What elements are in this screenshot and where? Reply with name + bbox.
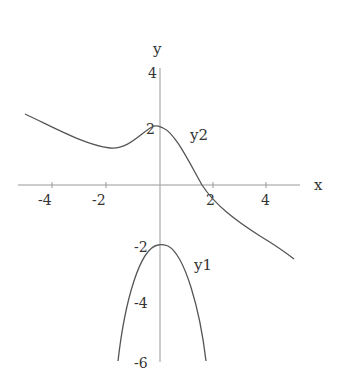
- x-tick-label: -2: [92, 192, 106, 208]
- x-axis-label: x: [314, 176, 323, 194]
- y-axis-label: y: [152, 40, 162, 58]
- curve-label-y1: y1: [193, 256, 212, 274]
- curve-label-y2: y2: [189, 126, 208, 144]
- y-tick-label: -6: [134, 355, 148, 371]
- function-plot: -4 -2 2 4 4 2 -2 -4 -6 y x y2 y1: [0, 0, 350, 391]
- x-tick-label: -4: [38, 192, 52, 208]
- y-tick-label: 4: [148, 65, 157, 81]
- y-tick-label: -4: [134, 295, 148, 311]
- x-tick-label: 4: [261, 192, 270, 208]
- curve-y1: [118, 245, 206, 361]
- y-tick-label: -2: [134, 239, 148, 255]
- y-tick-label: 2: [146, 121, 155, 137]
